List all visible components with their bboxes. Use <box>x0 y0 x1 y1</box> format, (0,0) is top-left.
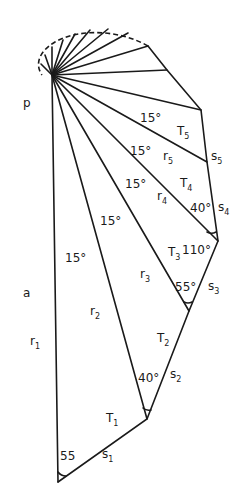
side-label: s2 <box>170 367 181 384</box>
radius-label: r2 <box>90 304 100 321</box>
side-label: s5 <box>211 149 222 166</box>
angle-arc-40 <box>207 232 216 233</box>
triangle-label: T1 <box>105 411 118 428</box>
polygon-spiral-diagram: p a r1r2r3r4r5T1T2T3T4T5s1s2s3s4s515°15°… <box>0 0 251 499</box>
angle-label: 40° <box>190 201 211 215</box>
radius-label: r3 <box>140 267 150 284</box>
angle-label: 55 <box>60 449 75 463</box>
radius-line <box>52 75 201 110</box>
angle-label: 15° <box>65 251 86 265</box>
radius-label: r4 <box>157 189 167 206</box>
triangle-label: T5 <box>176 124 189 141</box>
side-label: s4 <box>218 200 229 217</box>
triangle-label: T2 <box>156 331 169 348</box>
triangle-label: T3 <box>167 245 180 262</box>
angle-label: 40° <box>138 371 159 385</box>
angle-label: 15° <box>130 144 151 158</box>
radius-line <box>52 75 147 419</box>
radius-line <box>52 75 189 311</box>
side-label: s3 <box>208 279 219 296</box>
angle-arc-bottom <box>58 472 66 476</box>
fan-spoke <box>52 30 90 75</box>
radius-line <box>52 70 167 75</box>
radius-label: r1 <box>30 334 40 351</box>
radius-line <box>52 75 58 482</box>
axis-label: a <box>23 286 30 300</box>
angle-arc-55 <box>184 302 192 303</box>
angle-label: 15° <box>125 177 146 191</box>
angle-label: 15° <box>140 111 161 125</box>
pole-label: p <box>23 96 31 110</box>
angle-label: 110° <box>182 243 211 257</box>
angle-label: 15° <box>100 214 121 228</box>
radius-label: r5 <box>163 149 173 166</box>
side-label: s1 <box>102 447 113 464</box>
angle-label: 55° <box>175 280 196 294</box>
triangle-label: T4 <box>179 176 192 193</box>
fan-spoke <box>52 29 108 75</box>
